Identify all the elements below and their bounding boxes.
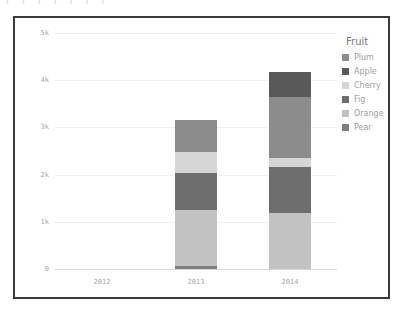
- bar-segment-2013-orange[interactable]: [175, 210, 217, 266]
- bar-segment-2013-fig[interactable]: [175, 173, 217, 211]
- y-axis-tick-label: 4k: [41, 76, 49, 84]
- legend-item-apple[interactable]: Apple: [342, 67, 402, 76]
- gridline: [55, 33, 337, 34]
- legend-swatch-icon: [342, 54, 349, 61]
- legend-item-label: Pear: [354, 123, 372, 132]
- chart-legend: Fruit PlumAppleCherryFigOrangePear: [342, 36, 402, 137]
- chart-frame: 01k2k3k4k5k201220132014 Fruit PlumAppleC…: [13, 16, 390, 299]
- x-axis-tick-label: 2012: [94, 278, 111, 286]
- legend-item-label: Cherry: [354, 81, 381, 90]
- legend-swatch-icon: [342, 124, 349, 131]
- legend-item-cherry[interactable]: Cherry: [342, 81, 402, 90]
- bar-segment-2014-cherry[interactable]: [269, 158, 311, 166]
- bar-2013[interactable]: [175, 120, 217, 269]
- cropped-top-text: | | | | | | |: [6, 0, 109, 4]
- legend-item-label: Fig: [354, 95, 365, 104]
- legend-item-pear[interactable]: Pear: [342, 123, 402, 132]
- legend-item-label: Apple: [354, 67, 377, 76]
- stacked-bar-chart: 01k2k3k4k5k201220132014 Fruit PlumAppleC…: [15, 18, 388, 297]
- x-axis-tick-label: 2013: [188, 278, 205, 286]
- bar-segment-2014-fig[interactable]: [269, 167, 311, 214]
- bar-segment-2013-cherry[interactable]: [175, 152, 217, 173]
- cropped-top-strip: | | | | | | |: [0, 0, 405, 13]
- legend-swatch-icon: [342, 68, 349, 75]
- bar-segment-2013-plum[interactable]: [175, 120, 217, 152]
- bar-segment-2013-pear[interactable]: [175, 266, 217, 269]
- x-axis-line: [55, 269, 337, 270]
- bar-2014[interactable]: [269, 72, 311, 269]
- y-axis-tick-label: 1k: [41, 218, 49, 226]
- legend-item-label: Plum: [354, 53, 374, 62]
- x-axis-tick-label: 2014: [282, 278, 299, 286]
- legend-item-plum[interactable]: Plum: [342, 53, 402, 62]
- bar-segment-2014-apple[interactable]: [269, 72, 311, 97]
- legend-items: PlumAppleCherryFigOrangePear: [342, 53, 402, 132]
- y-axis-tick-label: 0: [45, 265, 49, 273]
- y-axis-tick-label: 5k: [41, 29, 49, 37]
- plot-area: 01k2k3k4k5k201220132014: [55, 33, 337, 269]
- y-axis-tick-label: 2k: [41, 171, 49, 179]
- legend-item-fig[interactable]: Fig: [342, 95, 402, 104]
- legend-item-label: Orange: [354, 109, 384, 118]
- legend-swatch-icon: [342, 82, 349, 89]
- legend-swatch-icon: [342, 110, 349, 117]
- y-axis-tick-label: 3k: [41, 123, 49, 131]
- legend-item-orange[interactable]: Orange: [342, 109, 402, 118]
- legend-swatch-icon: [342, 96, 349, 103]
- bar-segment-2014-orange[interactable]: [269, 213, 311, 269]
- legend-title: Fruit: [346, 36, 402, 47]
- bar-segment-2014-plum[interactable]: [269, 97, 311, 158]
